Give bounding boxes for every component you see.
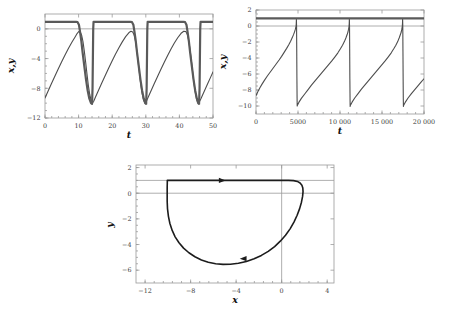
y-tick-label: −4 <box>31 55 40 63</box>
x-tick-label: 0 <box>280 287 284 295</box>
y-tick-label: −10 <box>238 102 252 110</box>
x-tick-label: 20 000 <box>413 118 435 126</box>
series-group <box>256 18 424 106</box>
x-axis-label: x <box>231 294 238 305</box>
flow-direction-lower-arrow-icon <box>240 256 247 261</box>
y-axis-label: y <box>104 221 115 229</box>
y-tick-label: −6 <box>122 266 131 274</box>
series-x <box>256 19 424 107</box>
figure-container: 010203040500−4−8−12tx,y 0500010 00015 00… <box>0 0 464 320</box>
x-tick-label: 4 <box>325 287 329 295</box>
flow-direction-upper-arrow-icon <box>219 178 226 183</box>
plot-canvas-time-series-short: 010203040500−4−8−12tx,y <box>0 0 232 160</box>
x-axis-label: t <box>338 125 343 136</box>
x-tick-label: 50 <box>209 122 217 130</box>
y-tick-label: −6 <box>242 70 251 78</box>
y-tick-label: 0 <box>247 22 251 30</box>
plot-canvas-time-series-long: 0500010 00015 00020 00020−2−4−6−8−10tx,y <box>232 0 464 160</box>
plot-phase-portrait: −12−8−40420−2−4−6xy <box>108 155 370 320</box>
x-tick-label: 30 <box>142 122 150 130</box>
x-tick-label: 15 000 <box>371 118 393 126</box>
plot-frame <box>136 165 334 283</box>
series-y <box>45 22 213 104</box>
y-tick-label: 2 <box>247 6 251 14</box>
y-tick-label: −8 <box>31 85 40 93</box>
y-tick-label: −4 <box>122 241 131 249</box>
x-tick-label: −12 <box>138 287 152 295</box>
series-x <box>45 31 213 103</box>
plot-time-series-long: 0500010 00015 00020 00020−2−4−6−8−10tx,y <box>232 0 464 160</box>
plot-time-series-short: 010203040500−4−8−12tx,y <box>0 0 232 160</box>
y-tick-label: 2 <box>127 164 131 172</box>
y-tick-label: −8 <box>242 86 251 94</box>
x-axis-label: t <box>127 129 132 140</box>
x-tick-label: 10 <box>75 122 83 130</box>
y-tick-label: 0 <box>36 25 40 33</box>
series-group <box>45 22 213 104</box>
y-axis-label: x,y <box>217 53 229 70</box>
x-tick-label: 5000 <box>290 118 306 126</box>
x-tick-label: 20 <box>108 122 116 130</box>
plot-canvas-phase-portrait: −12−8−40420−2−4−6xy <box>108 155 370 320</box>
series-group <box>167 178 303 265</box>
x-tick-label: 40 <box>175 122 183 130</box>
y-tick-label: −12 <box>27 114 41 122</box>
y-tick-label: 0 <box>127 190 131 198</box>
x-tick-label: 0 <box>254 118 258 126</box>
y-tick-label: −2 <box>122 215 131 223</box>
x-tick-label: 0 <box>43 122 47 130</box>
x-tick-label: −8 <box>186 287 195 295</box>
y-tick-label: −4 <box>242 54 251 62</box>
y-tick-label: −2 <box>242 38 251 46</box>
y-axis-label: x,y <box>5 57 17 74</box>
